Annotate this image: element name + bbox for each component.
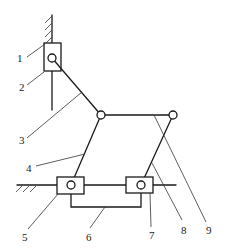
joint-slider-5: [67, 181, 75, 189]
label-9: 9: [206, 224, 212, 236]
joint-left-top: [97, 111, 105, 119]
right-link: [141, 115, 173, 185]
label-3: 3: [19, 134, 25, 146]
label-4: 4: [26, 162, 32, 174]
vertical-slider-block: [44, 43, 61, 110]
label-8: 8: [181, 224, 187, 236]
label-5: 5: [22, 231, 28, 243]
mechanism-diagram: 1 2 3 4 5 6 7 8 9: [0, 0, 227, 250]
leader-lines: [27, 44, 206, 229]
left-link: [71, 115, 101, 185]
connecting-bracket: [71, 193, 141, 207]
vertical-ground-frame: [45, 15, 52, 44]
joint-right-top: [169, 111, 177, 119]
upper-link: [52, 58, 101, 115]
label-1: 1: [17, 52, 23, 64]
label-2: 2: [19, 81, 25, 93]
joint-slider-2: [48, 54, 56, 62]
label-7: 7: [149, 229, 155, 241]
joint-slider-7: [137, 181, 145, 189]
label-6: 6: [86, 231, 92, 243]
